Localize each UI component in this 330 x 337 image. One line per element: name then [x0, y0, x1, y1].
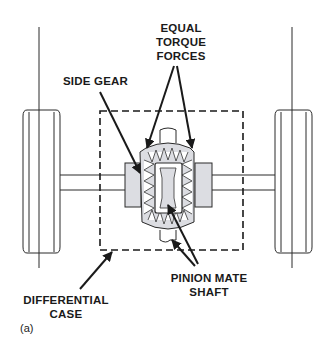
label-differential-case: DIFFERENTIAL CASE [18, 293, 114, 321]
left-wheel [23, 27, 60, 268]
label-line: SHAFT [166, 285, 252, 299]
label-line: PINION MATE [166, 271, 252, 285]
label-pinion-mate-shaft: PINION MATE SHAFT [166, 271, 252, 299]
label-line: FORCES [150, 49, 212, 63]
right-wheel [275, 27, 312, 268]
figure-caption: (a) [20, 322, 33, 334]
label-line: CASE [18, 307, 114, 321]
label-line: EQUAL [150, 21, 212, 35]
label-equal-torque-forces: EQUAL TORQUE FORCES [150, 21, 212, 63]
label-line: DIFFERENTIAL [18, 293, 114, 307]
label-side-gear: SIDE GEAR [63, 74, 128, 88]
gear-assembly [140, 143, 194, 229]
label-line: TORQUE [150, 35, 212, 49]
